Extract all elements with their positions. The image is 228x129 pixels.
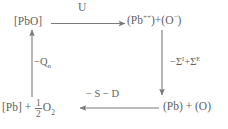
qn-symbol: Q bbox=[40, 56, 48, 67]
oxygen-subscript: 2 bbox=[51, 108, 55, 117]
label-heat-of-formation: −Qn bbox=[34, 57, 51, 68]
fraction-denominator: 2 bbox=[35, 108, 42, 119]
node-lead-oxide: [PbO] bbox=[14, 16, 42, 28]
node-lead-cation-oxygen-anion: (Pb++)+(O−) bbox=[127, 15, 181, 27]
cation-charge: ++ bbox=[143, 13, 151, 21]
ion-prefix: (Pb bbox=[127, 14, 143, 26]
lead-symbol: [Pb] bbox=[2, 101, 22, 113]
oxygen-symbol: O bbox=[43, 101, 51, 113]
ion-suffix: ) bbox=[178, 14, 182, 26]
label-ionization-electron-affinity: −ΣI+ΣE bbox=[170, 57, 200, 68]
qn-subscript: n bbox=[48, 62, 51, 69]
label-sublimation-dissociation: − S − D bbox=[86, 89, 119, 100]
node-lead-plus-oxygen: [Pb] + 1 2 O2 bbox=[2, 98, 55, 120]
one-half-fraction: 1 2 bbox=[35, 98, 42, 120]
label-lattice-energy: U bbox=[78, 2, 86, 14]
plus-sign: + bbox=[25, 101, 32, 113]
node-lead-atom-oxygen-atom: (Pb) + (O) bbox=[163, 101, 211, 113]
thermochemical-cycle-diagram: [PbO] (Pb++)+(O−) [Pb] + 1 2 O2 (Pb) + (… bbox=[0, 0, 228, 129]
ion-middle: )+(O bbox=[151, 14, 173, 26]
sigma-second-superscript: E bbox=[196, 55, 200, 62]
fraction-numerator: 1 bbox=[35, 98, 42, 108]
